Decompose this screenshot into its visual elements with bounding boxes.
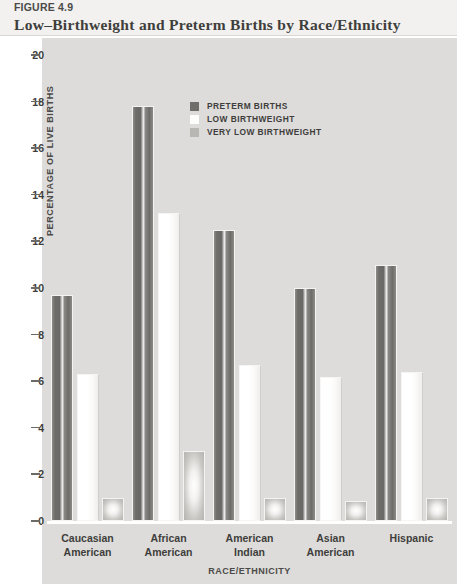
y-axis-tick-mark: [31, 240, 40, 242]
legend-item: PRETERM BIRTHS: [190, 100, 322, 112]
bar: [158, 213, 180, 521]
legend-swatch-icon: [190, 102, 199, 111]
bar: [375, 265, 397, 521]
x-axis-category-label: AfricanAmerican: [128, 532, 209, 559]
bar: [102, 498, 124, 521]
legend-item: LOW BIRTHWEIGHT: [190, 113, 322, 125]
x-axis-category-line: African: [128, 532, 209, 546]
legend-label: VERY LOW BIRTHWEIGHT: [207, 127, 322, 137]
figure-header: FIGURE 4.9 Low–Birthweight and Preterm B…: [0, 0, 457, 36]
y-axis-tick-mark: [31, 54, 40, 56]
y-axis-tick-mark: [31, 147, 40, 149]
x-axis-category-label: CaucasianAmerican: [47, 532, 128, 559]
y-axis-tick-mark: [31, 194, 40, 196]
figure-number: FIGURE 4.9: [14, 0, 457, 13]
x-axis-category-line: Asian: [290, 532, 371, 546]
below-axis-strip: [42, 524, 457, 530]
bar: [213, 230, 235, 521]
bar-group: [51, 55, 124, 521]
y-axis-tick-mark: [31, 287, 40, 289]
x-axis-category-label: Hispanic: [371, 532, 452, 546]
legend-item: VERY LOW BIRTHWEIGHT: [190, 126, 322, 138]
y-axis-tick-mark: [31, 334, 40, 336]
x-axis-category-label: AsianAmerican: [290, 532, 371, 559]
x-axis-category-line: Hispanic: [371, 532, 452, 546]
x-axis-category-line: American: [47, 546, 128, 560]
bar: [401, 372, 423, 521]
figure-title: Low–Birthweight and Preterm Births by Ra…: [14, 13, 457, 34]
x-axis-category-line: Indian: [209, 546, 290, 560]
y-axis-tick-mark: [31, 427, 40, 429]
bar: [77, 374, 99, 521]
legend-swatch-icon: [190, 128, 199, 137]
bar: [264, 498, 286, 521]
bar: [132, 106, 154, 521]
bar: [239, 365, 261, 521]
x-axis-category-line: American: [209, 532, 290, 546]
y-axis-tick-mark: [31, 473, 40, 475]
y-axis-tick-mark: [31, 520, 40, 522]
bar: [345, 501, 367, 521]
bar: [426, 498, 448, 521]
x-axis-title: RACE/ETHNICITY: [47, 566, 452, 576]
y-axis-tick-mark: [31, 101, 40, 103]
bar: [51, 295, 73, 521]
chart-legend: PRETERM BIRTHSLOW BIRTHWEIGHTVERY LOW BI…: [190, 100, 322, 139]
bar: [294, 288, 316, 521]
bar-group: [375, 55, 448, 521]
x-axis-category-line: American: [128, 546, 209, 560]
legend-label: LOW BIRTHWEIGHT: [207, 114, 295, 124]
legend-swatch-icon: [190, 115, 199, 124]
x-axis-category-line: American: [290, 546, 371, 560]
chart-figure: 20181614121086420 PERCENTAGE OF LIVE BIR…: [0, 36, 457, 584]
bar: [183, 451, 205, 521]
x-axis-category-label: AmericanIndian: [209, 532, 290, 559]
legend-label: PRETERM BIRTHS: [207, 101, 288, 111]
x-axis-category-line: Caucasian: [47, 532, 128, 546]
bar: [320, 377, 342, 521]
y-axis-tick-mark: [31, 380, 40, 382]
